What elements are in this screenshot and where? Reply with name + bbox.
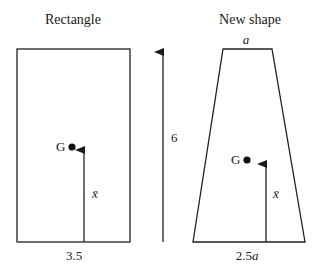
trapezoid-shape bbox=[193, 49, 305, 242]
rectangle-title: Rectangle bbox=[45, 12, 101, 27]
bottom-width-var: a bbox=[252, 248, 259, 263]
height-indicator: 6 bbox=[163, 52, 178, 242]
bottom-width-number: 2.5 bbox=[236, 248, 252, 263]
rectangle-centroid-height-label: x̄ bbox=[91, 186, 98, 201]
new-shape-centroid-height-label: x̄ bbox=[272, 186, 279, 201]
rectangle-centroid-label: G bbox=[56, 139, 65, 154]
rectangle-centroid-dot bbox=[68, 143, 75, 150]
new-shape-bottom-width-label: 2.5a bbox=[236, 248, 259, 263]
diagram-canvas: Rectangle G x̄ 3.5 6 New shape a G x̄ 2.… bbox=[0, 0, 322, 268]
rectangle-figure: Rectangle G x̄ 3.5 bbox=[17, 12, 130, 263]
new-shape-centroid-dot bbox=[243, 156, 250, 163]
height-label: 6 bbox=[171, 130, 178, 145]
new-shape-top-width-label: a bbox=[243, 32, 250, 47]
new-shape-figure: New shape a G x̄ 2.5a bbox=[193, 12, 305, 263]
new-shape-centroid-label: G bbox=[231, 152, 240, 167]
new-shape-title: New shape bbox=[219, 12, 281, 27]
rectangle-width-label: 3.5 bbox=[66, 248, 82, 263]
